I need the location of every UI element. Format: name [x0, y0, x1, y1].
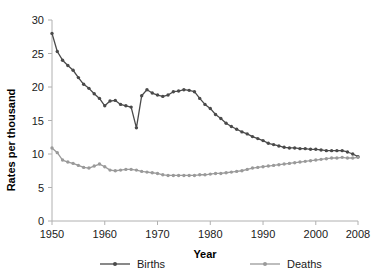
- data-point: [145, 88, 148, 91]
- data-point: [230, 125, 233, 128]
- data-point: [330, 149, 333, 152]
- data-point: [272, 143, 275, 146]
- y-tick-label-25: 25: [32, 48, 44, 60]
- data-point: [151, 91, 154, 94]
- data-point: [209, 107, 212, 110]
- data-point: [267, 164, 270, 167]
- data-point: [77, 76, 80, 79]
- data-point: [114, 99, 117, 102]
- data-point: [182, 174, 185, 177]
- x-tick-label-1960: 1960: [93, 228, 117, 240]
- data-point: [293, 161, 296, 164]
- data-point: [319, 148, 322, 151]
- data-point: [87, 166, 90, 169]
- chart-container: 051015202530 195019601970198019902000200…: [0, 0, 374, 278]
- data-point: [129, 168, 132, 171]
- data-point: [93, 92, 96, 95]
- x-tick-label-1950: 1950: [40, 228, 64, 240]
- data-point: [61, 59, 64, 62]
- series-deaths: [50, 146, 359, 177]
- data-point: [56, 151, 59, 154]
- data-point: [277, 144, 280, 147]
- x-axis-title: Year: [193, 248, 217, 260]
- data-point: [172, 90, 175, 93]
- data-point: [293, 146, 296, 149]
- data-point: [56, 50, 59, 53]
- data-point: [214, 113, 217, 116]
- data-point: [351, 152, 354, 155]
- data-point: [261, 139, 264, 142]
- series-line-deaths: [52, 148, 358, 175]
- data-point: [119, 103, 122, 106]
- data-point: [309, 148, 312, 151]
- data-point: [108, 168, 111, 171]
- data-point: [140, 170, 143, 173]
- data-point: [198, 97, 201, 100]
- line-chart: 051015202530 195019601970198019902000200…: [0, 0, 374, 278]
- data-point: [256, 166, 259, 169]
- data-point: [261, 165, 264, 168]
- data-point: [209, 172, 212, 175]
- y-tick-label-10: 10: [32, 148, 44, 160]
- data-point: [335, 156, 338, 159]
- data-point: [124, 104, 127, 107]
- data-point: [298, 160, 301, 163]
- data-point: [251, 135, 254, 138]
- x-tick-label-2000: 2000: [304, 228, 328, 240]
- data-point: [346, 156, 349, 159]
- data-point: [351, 156, 354, 159]
- data-point: [198, 173, 201, 176]
- legend-item-births[interactable]: Births: [100, 258, 166, 270]
- data-point: [219, 117, 222, 120]
- data-point: [340, 149, 343, 152]
- data-point: [282, 146, 285, 149]
- data-point: [145, 170, 148, 173]
- data-point: [335, 149, 338, 152]
- data-point: [256, 137, 259, 140]
- data-point: [82, 166, 85, 169]
- data-point: [161, 173, 164, 176]
- data-point: [71, 162, 74, 165]
- data-point: [172, 174, 175, 177]
- legend-marker-deaths: [263, 262, 267, 266]
- data-point: [304, 147, 307, 150]
- data-point: [214, 172, 217, 175]
- data-point: [140, 94, 143, 97]
- legend-label-births: Births: [137, 258, 166, 270]
- data-point: [77, 164, 80, 167]
- data-point: [103, 104, 106, 107]
- data-point: [340, 156, 343, 159]
- data-point: [240, 130, 243, 133]
- data-point: [50, 32, 53, 35]
- data-point: [71, 69, 74, 72]
- y-tick-label-5: 5: [38, 182, 44, 194]
- data-point: [93, 164, 96, 167]
- legend-label-deaths: Deaths: [287, 258, 322, 270]
- data-point: [98, 97, 101, 100]
- data-point: [240, 169, 243, 172]
- y-tick-label-30: 30: [32, 14, 44, 26]
- data-point: [277, 163, 280, 166]
- data-point: [314, 158, 317, 161]
- data-point: [135, 126, 138, 129]
- data-point: [50, 146, 53, 149]
- x-axis-ticks: [52, 221, 358, 225]
- data-point: [288, 146, 291, 149]
- data-point: [156, 172, 159, 175]
- y-axis-title: Rates per thousand: [5, 89, 17, 192]
- data-point: [135, 168, 138, 171]
- data-point: [319, 158, 322, 161]
- data-point: [224, 171, 227, 174]
- data-point: [187, 174, 190, 177]
- data-point: [193, 90, 196, 93]
- x-tick-label-1990: 1990: [251, 228, 275, 240]
- legend-marker-births: [113, 262, 117, 266]
- data-point: [103, 165, 106, 168]
- legend-item-deaths[interactable]: Deaths: [250, 258, 322, 270]
- data-point: [267, 142, 270, 145]
- data-point: [309, 159, 312, 162]
- data-point: [108, 99, 111, 102]
- data-point: [119, 168, 122, 171]
- data-point: [219, 172, 222, 175]
- data-point: [272, 164, 275, 167]
